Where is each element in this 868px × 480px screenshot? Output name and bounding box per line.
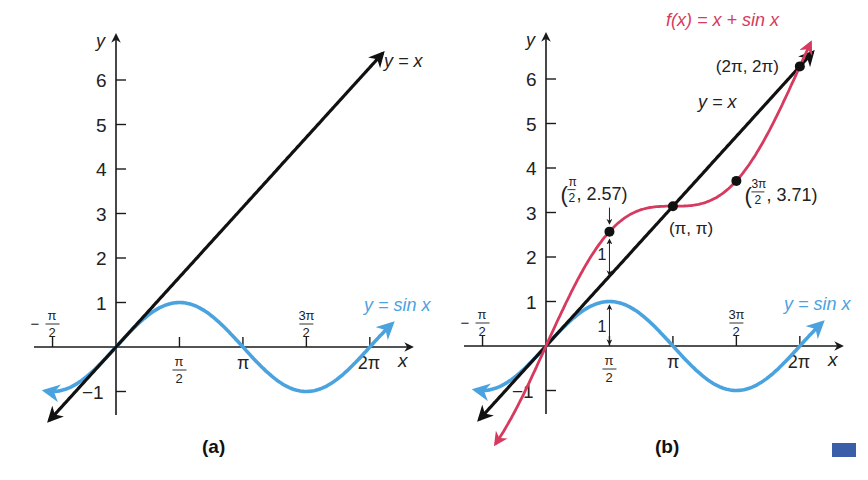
y-tick-label: 4: [526, 158, 537, 179]
y-tick-label: 1: [96, 293, 107, 314]
x-tick-label-num: 3π: [298, 308, 314, 323]
y-tick-label: 6: [96, 70, 107, 91]
gap-label-bottom: 1: [597, 318, 606, 335]
curve-y-equals-x: [49, 53, 382, 420]
y-tick-label: 4: [96, 159, 107, 180]
label-x-plus-sin-x: f(x) = x + sin x: [666, 10, 780, 30]
x-tick-label: π: [237, 353, 249, 373]
y-tick-label: 1: [526, 292, 537, 313]
y-tick-label: 3: [526, 203, 537, 224]
x-tick-label-den: 2: [49, 325, 56, 340]
x-tick-label-num: 3π: [728, 307, 744, 322]
graph-canvas: yx654321−1π2−π2π3π22πy = sin xy = xyx654…: [0, 0, 868, 480]
y-tick-label: 3: [96, 204, 107, 225]
point-2: [731, 176, 741, 186]
x-tick-label-den: 2: [605, 370, 612, 385]
x-tick-label-sign: −: [31, 315, 40, 332]
curve-y-equals-x: [479, 52, 812, 419]
x-tick-label-den: 2: [302, 325, 309, 340]
point-label-den: 2: [754, 193, 761, 207]
point-label-num: 3π: [751, 177, 766, 191]
x-tick-label: π: [667, 352, 679, 372]
y-tick-label: 2: [96, 248, 107, 269]
x-tick-label-den: 2: [479, 324, 486, 339]
x-axis-label: x: [827, 349, 839, 370]
y-tick-label: 2: [526, 247, 537, 268]
x-tick-label-num: π: [478, 307, 487, 322]
y-tick-label: 6: [526, 69, 537, 90]
x-tick-label-sign: −: [461, 314, 470, 331]
paren: (: [560, 182, 568, 207]
panel-b: yx654321−1π2−π2π3π22πy = sin xy = xf(x) …: [461, 10, 852, 444]
x-tick-label-num: π: [174, 354, 183, 369]
point-label-pi-half: , 2.57): [576, 184, 627, 204]
caption-a: (a): [202, 436, 225, 458]
point-1: [668, 201, 678, 211]
label-sin-x: y = sin x: [782, 294, 852, 314]
point-3: [795, 61, 805, 71]
x-axis-label: x: [397, 350, 409, 371]
x-tick-label-num: π: [48, 308, 57, 323]
x-tick-label-num: π: [604, 353, 613, 368]
x-tick-label-den: 2: [732, 324, 739, 339]
y-axis-label: y: [94, 31, 106, 51]
x-tick-label-den: 2: [175, 371, 182, 386]
gap-label-top: 1: [597, 246, 606, 263]
panel-a: yx654321−1π2−π2π3π22πy = sin xy = x: [31, 31, 432, 420]
label-y-equals-x: y = x: [382, 51, 424, 71]
corner-mark: [832, 443, 856, 457]
point-label-3pi-half: , 3.71): [766, 185, 817, 205]
point-label-2pi: (2π, 2π): [716, 57, 779, 76]
y-axis-label: y: [524, 30, 536, 50]
label-sin-x: y = sin x: [362, 295, 432, 315]
y-tick-label: 5: [526, 114, 537, 135]
caption-b: (b): [655, 436, 679, 458]
y-tick-label: 5: [96, 115, 107, 136]
point-0: [604, 227, 614, 237]
point-label-pi: (π, π): [669, 219, 713, 238]
y-tick-label: −1: [82, 382, 104, 403]
curve-x-plus-sin-x: [496, 43, 811, 444]
label-y-equals-x: y = x: [696, 92, 738, 112]
figure: yx654321−1π2−π2π3π22πy = sin xy = xyx654…: [0, 0, 868, 480]
point-label-den: 2: [568, 191, 575, 205]
